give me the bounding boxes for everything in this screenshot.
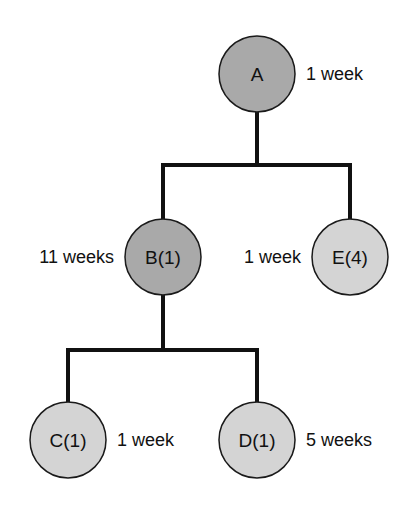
node-a: A 1 week	[219, 36, 364, 112]
edge-a-children	[163, 112, 350, 219]
node-e-label: E(4)	[332, 247, 368, 268]
node-b-label: B(1)	[145, 247, 181, 268]
node-e-duration: 1 week	[244, 247, 302, 267]
node-d: D(1) 5 weeks	[219, 402, 372, 478]
node-d-duration: 5 weeks	[306, 430, 372, 450]
node-b: B(1) 11 weeks	[39, 219, 201, 295]
node-b-duration: 11 weeks	[39, 247, 114, 267]
tree-diagram: A 1 week B(1) 11 weeks E(4) 1 week C(1) …	[0, 0, 415, 510]
node-c: C(1) 1 week	[30, 402, 175, 478]
node-c-label: C(1)	[50, 430, 87, 451]
node-c-duration: 1 week	[117, 430, 175, 450]
edge-b-children	[68, 295, 257, 402]
node-a-duration: 1 week	[306, 64, 364, 84]
node-d-label: D(1)	[239, 430, 276, 451]
node-e: E(4) 1 week	[244, 219, 388, 295]
node-a-label: A	[251, 64, 264, 85]
